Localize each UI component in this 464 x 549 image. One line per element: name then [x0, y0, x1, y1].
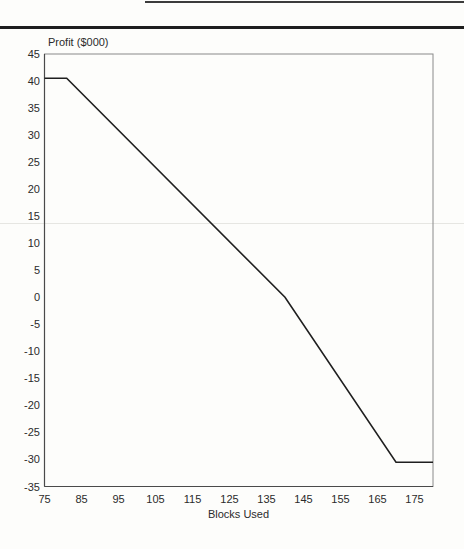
x-tick-label: 125 — [213, 492, 247, 506]
x-tick-label: 135 — [250, 492, 284, 506]
x-tick-label: 115 — [176, 492, 210, 506]
y-tick-label: -15 — [0, 371, 40, 385]
x-tick-label: 95 — [102, 492, 136, 506]
y-tick-label: 5 — [0, 263, 40, 277]
x-tick-label: 155 — [324, 492, 358, 506]
x-tick-label: 145 — [287, 492, 321, 506]
y-tick-label: -5 — [0, 317, 40, 331]
y-axis-title: Profit ($000) — [48, 36, 109, 48]
y-tick-label: -10 — [0, 344, 40, 358]
y-tick-label: 30 — [0, 128, 40, 142]
y-tick-label: 0 — [0, 290, 40, 304]
y-tick-label: 40 — [0, 74, 40, 88]
y-tick-label: -20 — [0, 398, 40, 412]
y-tick-label: 25 — [0, 155, 40, 169]
y-tick-label: -25 — [0, 425, 40, 439]
y-tick-label: -30 — [0, 452, 40, 466]
y-tick-label: 45 — [0, 47, 40, 61]
y-tick-label: 35 — [0, 101, 40, 115]
y-tick-label: 10 — [0, 236, 40, 250]
y-tick-label: 15 — [0, 209, 40, 223]
x-tick-label: 105 — [139, 492, 173, 506]
y-tick-label: 20 — [0, 182, 40, 196]
x-tick-label: 85 — [65, 492, 99, 506]
x-axis-title: Blocks Used — [44, 508, 433, 520]
plot-area — [0, 0, 464, 549]
profit-line — [45, 78, 434, 462]
scanned-page: Profit ($000) 454035302520151050-5-10-15… — [0, 0, 464, 549]
x-tick-label: 75 — [28, 492, 62, 506]
x-tick-label: 175 — [398, 492, 432, 506]
plot-frame — [45, 54, 434, 487]
profit-line-chart: Profit ($000) 454035302520151050-5-10-15… — [0, 0, 464, 549]
x-tick-label: 165 — [361, 492, 395, 506]
